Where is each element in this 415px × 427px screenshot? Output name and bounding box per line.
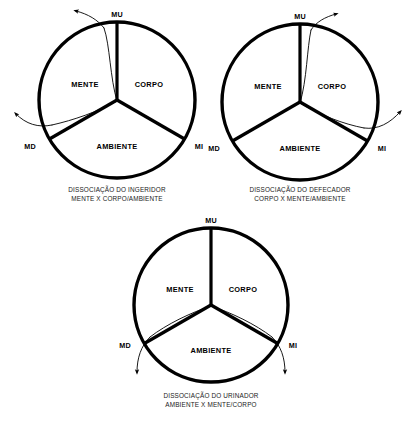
diagram-ingeridor-node-md: MD (24, 142, 36, 151)
diagram-defecador-caption-line2: CORPO X MENTE/AMBIENTE (254, 195, 345, 202)
diagram-ingeridor-node-mu: MU (111, 10, 123, 19)
diagram-ingeridor-sector-corpo: CORPO (135, 80, 164, 89)
diagram-ingeridor-caption-line1: DISSOCIAÇÃO DO INGERIDOR (68, 185, 166, 194)
diagram-urinador-caption-line1: DISSOCIAÇÃO DO URINADOR (163, 391, 258, 400)
diagram-ingeridor: MU MD MI MENTE CORPO AMBIENTE DISSOCIAÇÃ… (16, 10, 203, 202)
diagram-urinador-node-mi: MI (289, 341, 297, 350)
diagram-ingeridor-sector-mente: MENTE (71, 80, 98, 89)
diagram-defecador-node-mi: MI (378, 144, 386, 153)
diagram-defecador-node-mu: MU (294, 12, 306, 21)
diagram-urinador: MU MD MI MENTE CORPO AMBIENTE DISSOCIAÇÃ… (119, 216, 297, 408)
diagram-defecador: MU MD MI MENTE CORPO AMBIENTE DISSOCIAÇÃ… (208, 12, 400, 202)
diagram-defecador-sector-ambiente: AMBIENTE (280, 144, 321, 153)
diagram-ingeridor-caption-line2: MENTE X CORPO/AMBIENTE (71, 195, 162, 202)
diagram-urinador-sector-mente: MENTE (166, 285, 193, 294)
diagram-defecador-sector-mente: MENTE (254, 82, 281, 91)
diagram-urinador-caption-line2: AMBIENTE X MENTE/CORPO (165, 401, 256, 408)
diagram-defecador-caption-line1: DISSOCIAÇÃO DO DEFECADOR (249, 185, 350, 194)
diagram-ingeridor-sector-ambiente: AMBIENTE (97, 142, 138, 151)
diagram-urinador-sector-ambiente: AMBIENTE (191, 346, 232, 355)
diagram-ingeridor-node-mi: MI (195, 142, 203, 151)
diagram-urinador-node-mu: MU (205, 216, 217, 225)
diagram-urinador-sector-corpo: CORPO (229, 285, 258, 294)
figure-canvas: MU MD MI MENTE CORPO AMBIENTE DISSOCIAÇÃ… (0, 0, 415, 427)
diagram-defecador-node-md: MD (208, 144, 220, 153)
three-dissociation-diagrams: MU MD MI MENTE CORPO AMBIENTE DISSOCIAÇÃ… (0, 0, 415, 427)
diagram-urinador-node-md: MD (119, 341, 131, 350)
diagram-defecador-sector-corpo: CORPO (318, 82, 347, 91)
